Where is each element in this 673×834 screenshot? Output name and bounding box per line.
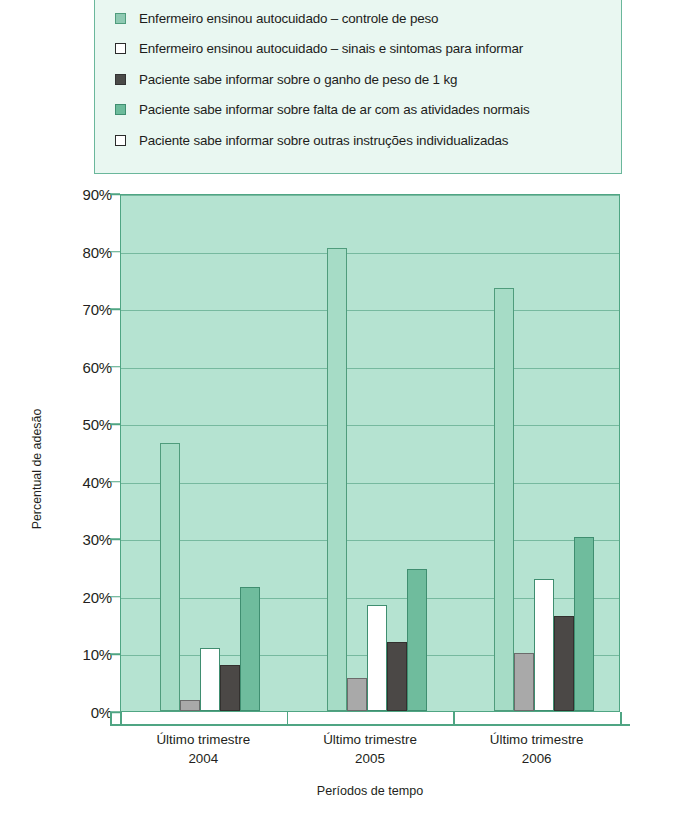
bar [240,587,260,711]
y-tick-label: 30% [56,531,112,548]
bar [514,653,534,711]
bar [574,537,594,711]
gridline [121,368,619,369]
y-axis-title: Percentual de adesão [30,369,44,569]
y-tick-mark [110,308,120,310]
x-axis-title: Períodos de tempo [120,784,620,798]
y-tick-mark [110,251,120,253]
bar [554,616,574,711]
bar [200,648,220,711]
bar [220,665,240,711]
y-tick-label: 70% [56,301,112,318]
gridline [121,195,619,196]
y-tick-mark [110,423,120,425]
y-tick-label: 60% [56,358,112,375]
y-tick-label: 10% [56,646,112,663]
y-tick-mark [110,366,120,368]
y-tick-mark [110,193,120,195]
bar [160,443,180,711]
y-tick-mark [110,539,120,541]
plot-area [120,194,620,712]
bar [494,288,514,711]
bar [327,248,347,711]
bar [407,569,427,711]
bar [180,700,200,712]
y-tick-mark [110,596,120,598]
x-group-label-line2: 2006 [432,749,642,768]
x-axis-line [110,724,630,726]
bar [387,642,407,711]
y-tick-mark [110,481,120,483]
x-group-label-line1: Último trimestre [432,730,642,749]
y-tick-label: 20% [56,588,112,605]
x-tick-mark [110,712,112,725]
gridline [121,540,619,541]
gridline [121,483,619,484]
y-tick-label: 90% [56,186,112,203]
y-tick-mark [110,654,120,656]
gridline [121,310,619,311]
bar [534,579,554,711]
x-tick-mark [120,712,122,725]
y-axis: 0%10%20%30%40%50%60%70%80%90% [48,0,112,834]
y-tick-mark [110,711,120,713]
gridline [121,425,619,426]
y-tick-label: 0% [56,704,112,721]
x-tick-mark [620,712,622,725]
y-tick-label: 50% [56,416,112,433]
y-tick-label: 80% [56,243,112,260]
x-group-label: Último trimestre2006 [432,730,642,768]
gridline [121,253,619,254]
y-tick-label: 40% [56,473,112,490]
x-tick-mark [287,712,289,725]
bar-chart: 0%10%20%30%40%50%60%70%80%90% Percentual… [0,0,673,834]
bar [367,605,387,711]
x-tick-mark [453,712,455,725]
bar [347,678,367,711]
